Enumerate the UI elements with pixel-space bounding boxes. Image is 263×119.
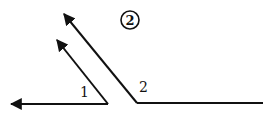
angle-diagram: 2 1 2: [0, 0, 263, 119]
figure-number-badge: 2: [121, 11, 139, 29]
angle-2-label: 2: [139, 79, 148, 95]
angle-2: 2: [64, 14, 263, 103]
figure-number-text: 2: [125, 13, 134, 28]
angle-1-label: 1: [80, 84, 89, 100]
